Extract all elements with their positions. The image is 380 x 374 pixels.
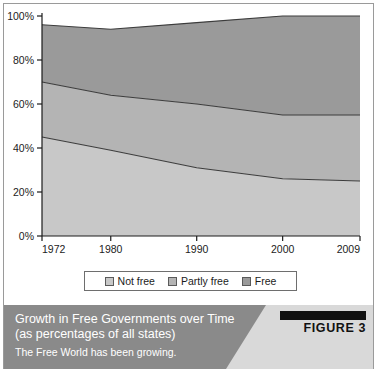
y-tick-label: 0%	[19, 230, 34, 242]
caption-title-line-1: Growth in Free Governments over Time	[15, 312, 260, 327]
figure-root: 0%20%40%60%80%100%19721980199020002009 N…	[0, 0, 380, 374]
x-tick-label: 1980	[99, 243, 123, 255]
y-tick-label: 20%	[13, 186, 34, 198]
legend-label: Free	[255, 276, 277, 287]
legend-item-not-free: Not free	[105, 276, 155, 287]
chart-legend: Not freePartly freeFree	[84, 271, 297, 291]
y-tick-label: 80%	[13, 54, 34, 66]
x-tick-label: 1990	[185, 243, 209, 255]
x-tick-label: 2009	[337, 243, 361, 255]
legend-item-free: Free	[242, 276, 277, 287]
figure-badge: FIGURE 3	[280, 311, 366, 335]
y-tick-label: 60%	[13, 98, 34, 110]
legend-swatch-icon	[242, 277, 251, 286]
caption-subtitle: The Free World has been growing.	[15, 345, 260, 359]
caption-text: Growth in Free Governments over Time (as…	[15, 312, 260, 359]
legend-label: Not free	[118, 276, 155, 287]
legend-swatch-icon	[168, 277, 177, 286]
stacked-area-chart: 0%20%40%60%80%100%19721980199020002009	[0, 0, 380, 300]
y-tick-label: 40%	[13, 142, 34, 154]
legend-item-partly-free: Partly free	[168, 276, 229, 287]
figure-badge-bar	[280, 311, 366, 320]
x-tick-label: 1972	[42, 243, 66, 255]
chart-panel: 0%20%40%60%80%100%19721980199020002009	[0, 0, 380, 300]
figure-badge-label: FIGURE 3	[280, 321, 366, 335]
area-bands	[42, 16, 360, 236]
y-tick-label: 100%	[7, 10, 34, 22]
legend-label: Partly free	[181, 276, 229, 287]
caption-title-line-2: (as percentages of all states)	[15, 327, 260, 342]
caption-bar: Growth in Free Governments over Time (as…	[4, 305, 373, 369]
legend-swatch-icon	[105, 277, 114, 286]
x-tick-label: 2000	[271, 243, 295, 255]
